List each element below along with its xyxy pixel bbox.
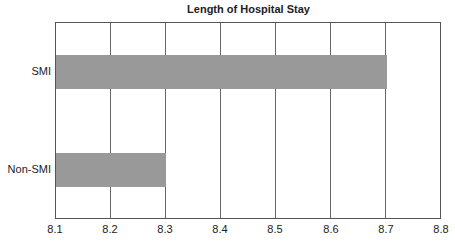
y-label-smi: SMI — [31, 65, 51, 77]
x-tick: 8.7 — [378, 223, 393, 235]
gridline — [330, 23, 331, 218]
gridline — [385, 23, 386, 218]
gridline — [220, 23, 221, 218]
y-label-non-smi: Non-SMI — [8, 163, 51, 175]
x-tick: 8.3 — [157, 223, 172, 235]
x-tick: 8.1 — [47, 223, 62, 235]
bar-smi — [56, 55, 387, 89]
bar-non-smi — [56, 153, 166, 187]
chart-title: Length of Hospital Stay — [0, 3, 455, 15]
gridline — [165, 23, 166, 218]
x-tick: 8.5 — [267, 223, 282, 235]
gridline — [275, 23, 276, 218]
gridline — [110, 23, 111, 218]
x-tick: 8.2 — [102, 223, 117, 235]
x-tick: 8.6 — [323, 223, 338, 235]
x-tick: 8.4 — [212, 223, 227, 235]
plot-area — [55, 22, 441, 219]
x-tick: 8.8 — [433, 223, 448, 235]
